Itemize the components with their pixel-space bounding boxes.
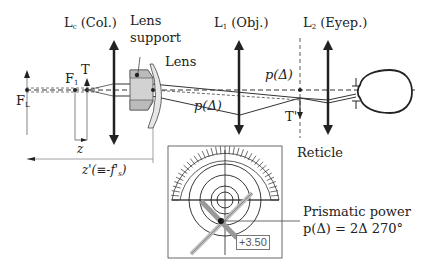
fl-point [25,88,29,92]
target-image-label: T' [285,110,297,123]
objective-label: L1 (Obj.) [214,16,269,31]
lens-support-label: Lenssupport [130,12,181,46]
reticle-label: Reticle [297,146,343,159]
fl-arrow-icon [24,70,30,78]
prism-lower-label: p(Δ) [194,99,222,112]
callout-value: p(Δ) = 2Δ 270° [303,222,403,235]
z-label: z [77,143,83,155]
lens-label: Lens [165,55,196,68]
z-prime-label: z'(≡-f's) [82,164,126,178]
prism-upper-label: p(Δ) [265,68,293,81]
eye-icon [358,70,412,113]
eyepiece-label: L2 (Eyep.) [303,16,367,31]
fl-label: FL [16,94,30,109]
target-image-arrow-icon [297,112,303,119]
collimator-label: Lc (Col.) [64,16,117,31]
target-label: T [81,63,90,76]
callout-title: Prismatic power [303,205,411,218]
target-arrow-icon [84,78,90,86]
f1-label: F1 [65,72,79,87]
lensmeter-diagram: Lc (Col.) Lenssupport Lens L1 (Obj.) L2 … [0,0,421,270]
power-reading: +3.50 [236,235,270,250]
f1-point [73,88,77,92]
